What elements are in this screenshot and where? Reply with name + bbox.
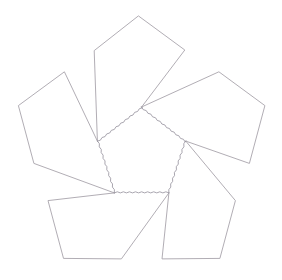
pentagon-net-figure: Dodecahedron Half-Net Geometric line dra…: [0, 0, 282, 280]
